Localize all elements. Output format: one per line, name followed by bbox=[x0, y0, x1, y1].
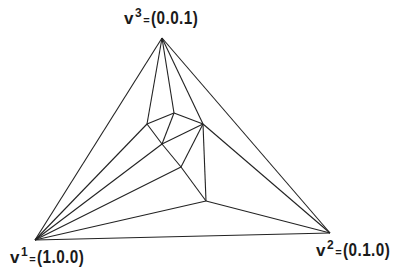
vertex-coordinate: (1.0.0) bbox=[37, 247, 84, 268]
equals-sign: = bbox=[143, 14, 150, 26]
vertex-index: 1 bbox=[21, 245, 28, 259]
vertex-label-v3: v3=(0.0.1) bbox=[124, 6, 207, 29]
edge-v1-v3 bbox=[35, 38, 162, 240]
edge-v3-C bbox=[162, 38, 203, 124]
edge-v2-v3 bbox=[162, 38, 330, 233]
edge-E-C bbox=[181, 124, 203, 167]
edge-C-F bbox=[203, 124, 206, 201]
edge-E-v1 bbox=[35, 167, 181, 240]
equals-sign: = bbox=[29, 253, 36, 265]
vertex-label-v2: v2=(0.1.0) bbox=[316, 238, 399, 261]
vertex-name: v bbox=[124, 9, 134, 28]
vertex-coordinate: (0.0.1) bbox=[151, 8, 198, 29]
vertex-label-v1: v1=(1.0.0) bbox=[10, 245, 93, 268]
edge-D-E bbox=[162, 144, 181, 167]
simplex-diagram bbox=[0, 0, 399, 277]
edge-A-D bbox=[147, 124, 162, 144]
edge-E-F bbox=[181, 167, 206, 201]
vertex-coordinate: (0.1.0) bbox=[343, 240, 390, 261]
vertex-name: v bbox=[316, 241, 326, 260]
edge-v1-v2 bbox=[35, 233, 330, 240]
vertex-index: 3 bbox=[135, 6, 142, 20]
edge-A-v1 bbox=[35, 124, 147, 240]
vertex-index: 2 bbox=[327, 238, 334, 252]
vertex-name: v bbox=[10, 248, 20, 267]
equals-sign: = bbox=[335, 246, 342, 258]
